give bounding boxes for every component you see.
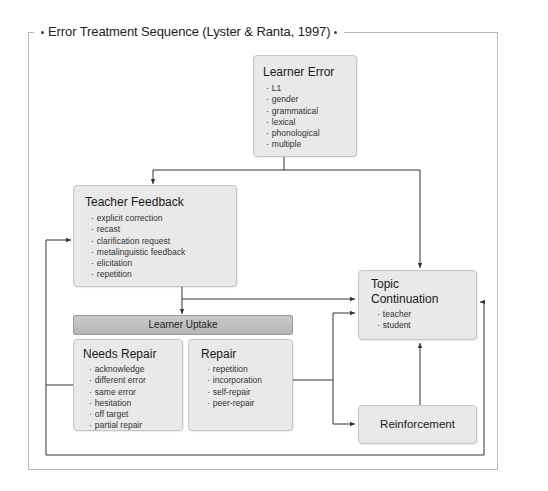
node-topic-continuation: Topic Continuation teacher student bbox=[358, 270, 477, 340]
list-item: clarification request bbox=[91, 236, 236, 247]
node-title-line2: Continuation bbox=[371, 292, 476, 307]
list-item: grammatical bbox=[266, 106, 356, 117]
needs-repair-list: acknowledge different error same error h… bbox=[83, 364, 182, 432]
node-teacher-feedback: Teacher Feedback explicit correction rec… bbox=[73, 185, 237, 287]
list-item: recast bbox=[91, 224, 236, 235]
list-item: student bbox=[377, 320, 476, 331]
list-item: partial repair bbox=[89, 420, 182, 431]
node-learner-error: Learner Error L1 gender grammatical lexi… bbox=[253, 55, 357, 157]
node-learner-uptake: Learner Uptake bbox=[73, 315, 293, 335]
list-item: repetition bbox=[91, 269, 236, 280]
list-item: phonological bbox=[266, 128, 356, 139]
list-item: elicitation bbox=[91, 258, 236, 269]
node-title-line1: Topic bbox=[371, 277, 476, 292]
list-item: metalinguistic feedback bbox=[91, 247, 236, 258]
learner-error-list: L1 gender grammatical lexical phonologic… bbox=[263, 83, 356, 151]
list-item: lexical bbox=[266, 117, 356, 128]
bullet-dot-icon bbox=[334, 31, 337, 34]
diagram-title-text: Error Treatment Sequence (Lyster & Ranta… bbox=[48, 24, 330, 39]
node-title: Teacher Feedback bbox=[85, 195, 236, 210]
list-item: peer-repair bbox=[207, 398, 292, 409]
node-reinforcement: Reinforcement bbox=[358, 405, 477, 444]
node-title: Repair bbox=[201, 347, 292, 362]
node-title: Learner Error bbox=[263, 65, 356, 80]
topic-continuation-list: teacher student bbox=[371, 309, 476, 332]
teacher-feedback-list: explicit correction recast clarification… bbox=[85, 213, 236, 281]
list-item: multiple bbox=[266, 139, 356, 150]
list-item: repetition bbox=[207, 364, 292, 375]
list-item: self-repair bbox=[207, 387, 292, 398]
list-item: gender bbox=[266, 94, 356, 105]
node-needs-repair: Needs Repair acknowledge different error… bbox=[73, 339, 183, 431]
bullet-dot-icon bbox=[41, 31, 44, 34]
node-title: Needs Repair bbox=[83, 347, 182, 362]
node-repair: Repair repetition incorporation self-rep… bbox=[188, 339, 293, 431]
list-item: hesitation bbox=[89, 398, 182, 409]
list-item: explicit correction bbox=[91, 213, 236, 224]
diagram-title: Error Treatment Sequence (Lyster & Ranta… bbox=[34, 24, 344, 39]
list-item: L1 bbox=[266, 83, 356, 94]
node-title: Reinforcement bbox=[380, 417, 455, 432]
repair-list: repetition incorporation self-repair pee… bbox=[201, 364, 292, 409]
list-item: different error bbox=[89, 375, 182, 386]
list-item: teacher bbox=[377, 309, 476, 320]
list-item: off target bbox=[89, 409, 182, 420]
list-item: acknowledge bbox=[89, 364, 182, 375]
list-item: same error bbox=[89, 387, 182, 398]
list-item: incorporation bbox=[207, 375, 292, 386]
